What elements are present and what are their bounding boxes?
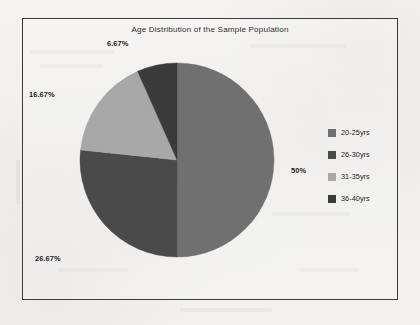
pie-slice-group — [80, 63, 274, 257]
legend-item-20-25yrs: 20-25yrs — [328, 127, 398, 138]
slice-value-label-26-30yrs: 26.67% — [35, 254, 61, 263]
slice-value-label-31-35yrs: 16.67% — [29, 90, 55, 99]
legend-item-36-40yrs: 36-40yrs — [328, 193, 398, 204]
pie-slice-20-25yrs — [177, 63, 274, 257]
legend-swatch-icon — [328, 173, 336, 181]
pie-chart — [79, 37, 275, 283]
slice-value-label-20-25yrs: 50% — [291, 166, 306, 175]
chart-frame: Age Distribution of the Sample Populatio… — [22, 18, 398, 300]
legend-swatch-icon — [328, 195, 336, 203]
slice-value-label-36-40yrs: 6.67% — [107, 39, 128, 48]
legend-swatch-icon — [328, 151, 336, 159]
legend-item-label: 36-40yrs — [341, 194, 370, 203]
legend-item-26-30yrs: 26-30yrs — [328, 149, 398, 160]
legend-swatch-icon — [328, 129, 336, 137]
chart-legend: 20-25yrs 26-30yrs 31-35yrs 36-40yrs — [328, 127, 398, 204]
legend-item-label: 26-30yrs — [341, 150, 370, 159]
legend-item-31-35yrs: 31-35yrs — [328, 171, 398, 182]
legend-item-label: 20-25yrs — [341, 128, 370, 137]
legend-item-label: 31-35yrs — [341, 172, 370, 181]
pie-plot-area: 50% 26.67% 16.67% 6.67% 20-25yrs 26-30yr… — [23, 19, 399, 301]
pie-slice-26-30yrs — [80, 150, 177, 257]
